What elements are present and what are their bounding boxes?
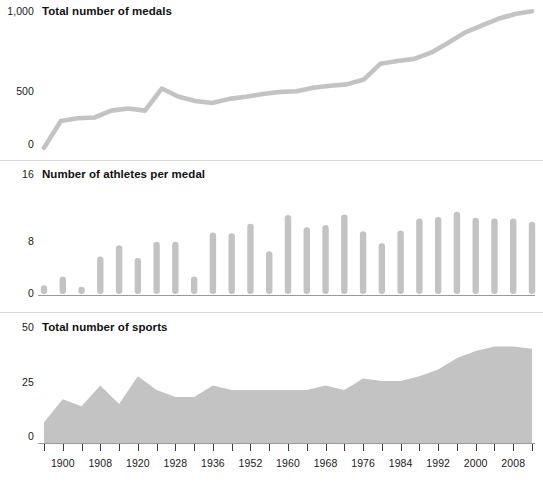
x-axis-tick: [513, 444, 514, 451]
x-axis-tick: [344, 444, 345, 451]
athletes-bar: [304, 227, 310, 294]
x-axis-tick: [438, 444, 439, 451]
x-axis-tick: [82, 444, 83, 451]
athletes-bar: [472, 218, 478, 294]
athletes-bar: [247, 224, 253, 294]
y-axis-max-label-medals: 1,000: [0, 5, 34, 17]
athletes-bar: [341, 214, 347, 294]
x-axis-label-1960: 1960: [276, 457, 300, 469]
medals-line-plot: [38, 14, 535, 152]
x-axis-tick: [213, 444, 214, 451]
y-axis-min-label-sports: 0: [0, 430, 34, 442]
athletes-bar: [322, 225, 328, 294]
x-axis-tick: [363, 444, 364, 451]
panel-divider-1: [0, 160, 543, 161]
athletes-bar: [116, 245, 122, 294]
x-axis-tick: [326, 444, 327, 451]
x-axis-tick: [119, 444, 120, 451]
x-axis-tick: [494, 444, 495, 451]
y-axis-max-label-athletes: 16: [0, 168, 34, 180]
athletes-bar: [529, 222, 535, 294]
x-axis-tick: [157, 444, 158, 451]
x-axis-label-1976: 1976: [351, 457, 375, 469]
athletes-bar: [60, 277, 66, 294]
x-axis-tick: [457, 444, 458, 451]
x-axis-label-1900: 1900: [51, 457, 75, 469]
panel-total-medals: 1,000 Total number of medals 500 0: [0, 0, 543, 163]
x-axis-label-1920: 1920: [126, 457, 150, 469]
x-axis-tick: [419, 444, 420, 451]
x-axis-label-1992: 1992: [426, 457, 450, 469]
x-axis-tick: [63, 444, 64, 451]
athletes-bar: [41, 285, 47, 294]
x-axis-label-2008: 2008: [501, 457, 525, 469]
olympics-statistics-figure: 1,000 Total number of medals 500 0 16 Nu…: [0, 0, 543, 495]
medals-line-series: [44, 11, 532, 148]
athletes-bar: [172, 242, 178, 294]
sports-area-series: [44, 346, 532, 443]
panel-athletes-per-medal: 16 Number of athletes per medal 8 0: [0, 163, 543, 316]
athletes-bar: [397, 230, 403, 294]
x-axis-label-1936: 1936: [201, 457, 225, 469]
athletes-bar: [360, 231, 366, 294]
athletes-bar: [153, 242, 159, 294]
y-axis-mid-label-sports: 25: [0, 376, 34, 388]
x-axis-tick: [401, 444, 402, 451]
athletes-bar: [135, 258, 141, 294]
x-axis-label-1952: 1952: [239, 457, 263, 469]
panel-athletes-header: 16 Number of athletes per medal: [0, 163, 205, 185]
x-axis-tick: [288, 444, 289, 451]
x-axis-tick: [476, 444, 477, 451]
x-axis-tick: [44, 444, 45, 451]
x-axis-tick: [232, 444, 233, 451]
y-axis-max-label-sports: 50: [0, 321, 34, 333]
x-axis-tick: [269, 444, 270, 451]
athletes-bar: [435, 217, 441, 294]
y-axis-min-label-medals: 0: [0, 138, 34, 150]
athletes-bar: [285, 215, 291, 294]
athletes-bar: [491, 218, 497, 294]
y-axis-mid-label-athletes: 8: [0, 235, 34, 247]
x-axis-tick: [382, 444, 383, 451]
x-axis-label-2000: 2000: [464, 457, 488, 469]
x-axis-tick: [194, 444, 195, 451]
x-axis: 1900190819201928193619521960196819761984…: [0, 443, 543, 495]
athletes-bar: [228, 233, 234, 294]
x-axis-tick: [175, 444, 176, 451]
y-axis-min-label-athletes: 0: [0, 287, 34, 299]
sports-area-plot: [38, 328, 535, 443]
athletes-bar: [454, 212, 460, 294]
x-axis-line: [38, 443, 535, 444]
athletes-bar-plot: [38, 187, 535, 294]
athletes-bar: [210, 232, 216, 294]
x-axis-label-1928: 1928: [163, 457, 187, 469]
y-axis-mid-label-medals: 500: [0, 85, 34, 97]
panel-athletes-title: Number of athletes per medal: [42, 168, 205, 180]
athletes-bar: [416, 218, 422, 294]
x-axis-label-1908: 1908: [88, 457, 112, 469]
athletes-bar: [379, 243, 385, 294]
athletes-baseline: [38, 295, 535, 296]
x-axis-label-1984: 1984: [389, 457, 413, 469]
x-axis-label-1968: 1968: [314, 457, 338, 469]
athletes-bar: [266, 251, 272, 294]
x-axis-tick: [100, 444, 101, 451]
athletes-bar: [191, 277, 197, 294]
athletes-bar: [97, 257, 103, 294]
athletes-bar: [78, 287, 84, 294]
athletes-bar: [510, 218, 516, 294]
x-axis-tick: [138, 444, 139, 451]
x-axis-tick: [250, 444, 251, 451]
x-axis-tick: [532, 444, 533, 451]
x-axis-tick: [307, 444, 308, 451]
panel-divider-2: [0, 312, 543, 313]
